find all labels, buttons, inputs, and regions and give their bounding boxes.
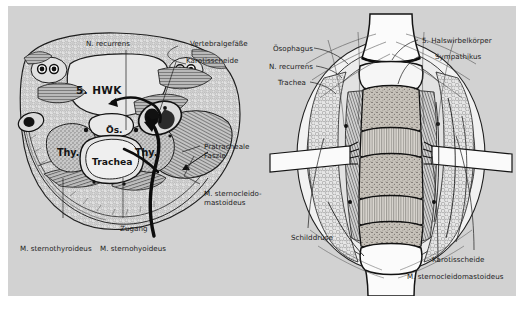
disc-inferior [360, 244, 422, 275]
right-label-sympathikus: Sympathikus [435, 52, 481, 61]
figure-panel: 5. HWK Ös. Thy. Thy. Trachea [8, 6, 516, 296]
right-label-karotisscheide: Karotisscheide [432, 255, 484, 264]
left-label-m-sternothyroideus: M. sternothyroideus [20, 244, 92, 253]
anatomy-figure: 5. HWK Ös. Thy. Thy. Trachea [0, 0, 524, 310]
right-label-schilddruese: Schilddrüse [291, 233, 333, 242]
label-trachea: Trachea [92, 156, 132, 167]
n-recurrens-right-dot [134, 128, 138, 132]
label-thy-left: Thy. [57, 147, 79, 158]
vertebral-column-exposed [359, 62, 423, 275]
label-5-hwk: 5. HWK [76, 84, 122, 96]
right-label-n-recurrens: N. recurrens [258, 62, 313, 71]
n-recurrens-left-dot [84, 128, 88, 132]
left-label-m-sternohyoideus: M. sternohyoideus [100, 244, 166, 253]
nerve-dot-left-lower [348, 200, 352, 204]
trachea-superior [362, 14, 420, 63]
label-oes: Ös. [106, 125, 122, 135]
left-label-m-sternocleidomastoideus: M. sternocleido- mastoideus [204, 189, 262, 207]
right-label-trachea: Trachea [266, 78, 306, 87]
right-label-oesophagus: Ösophagus [266, 44, 313, 53]
left-label-praetracheale-faszie: Prätracheale Faszie [204, 142, 250, 160]
left-label-n-recurrens: N. recurrens [86, 39, 130, 48]
left-label-vertebralgefaesse: Vertebralgefäße [190, 39, 248, 48]
nerve-dot-left-upper [344, 124, 348, 128]
right-label-m-sternocleidomastoideus: M. sternocleidomastoideus [407, 272, 504, 281]
left-label-zugang: Zugang [120, 224, 148, 233]
label-thy-right: Thy. [135, 147, 157, 158]
sympathikus-dot [432, 200, 436, 204]
left-label-karotisscheide: Karotisscheide [186, 56, 238, 65]
right-label-halswirbelkoerper: 5. Halswirbelkörper [422, 36, 492, 45]
